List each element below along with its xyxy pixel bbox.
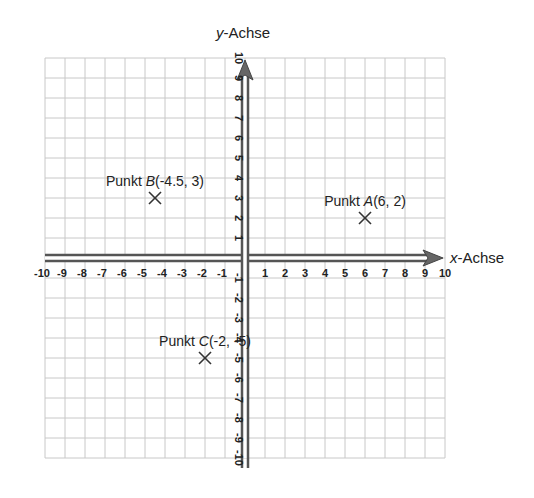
x-tick-label: 2 (282, 267, 288, 279)
x-tick-label: -3 (177, 267, 187, 279)
x-tick-label: 10 (439, 267, 451, 279)
x-tick-label: 4 (322, 267, 329, 279)
x-tick-label: -7 (97, 267, 107, 279)
y-tick-label: 7 (233, 115, 245, 121)
point-label: Punkt C(-2, -5) (159, 333, 251, 349)
y-tick-label: -9 (233, 433, 245, 443)
y-tick-label: 8 (233, 95, 245, 101)
x-tick-label: -10 (34, 267, 50, 279)
y-tick-label: 9 (233, 75, 245, 81)
y-tick-label: 5 (233, 155, 245, 161)
x-tick-label: 5 (342, 267, 348, 279)
points: Punkt A(6, 2)Punkt B(-4.5, 3)Punkt C(-2,… (106, 173, 406, 364)
y-tick-label: -7 (233, 393, 245, 403)
y-tick-label: -2 (233, 293, 245, 303)
y-tick-label: 6 (233, 135, 245, 141)
x-tick-label: 3 (302, 267, 308, 279)
point-label: Punkt A(6, 2) (324, 193, 406, 209)
x-tick-label: -8 (77, 267, 87, 279)
y-tick-label: 10 (233, 52, 245, 64)
x-axis-label-rest: -Achse (458, 249, 505, 266)
coordinate-diagram: -10-9-8-7-6-5-4-3-2-112345678910-10-9-8-… (0, 0, 534, 498)
x-axis-label: x-Achse (449, 249, 504, 266)
x-tick-label: 7 (382, 267, 388, 279)
x-tick-label: -9 (57, 267, 67, 279)
point-b: Punkt B(-4.5, 3) (106, 173, 204, 204)
x-tick-label: -1 (217, 267, 227, 279)
x-tick-label: -6 (117, 267, 127, 279)
x-tick-label: -5 (137, 267, 147, 279)
x-tick-label: -4 (157, 267, 168, 279)
y-tick-label: -3 (233, 313, 245, 323)
y-tick-label: 3 (233, 195, 245, 201)
y-tick-label: -6 (233, 373, 245, 383)
y-tick-label: -8 (233, 413, 245, 423)
y-tick-label: -1 (233, 273, 245, 283)
y-tick-label: -10 (233, 450, 245, 466)
x-tick-label: 8 (402, 267, 408, 279)
y-axis-label: y-Achse (215, 24, 270, 41)
y-tick-label: -5 (233, 353, 245, 363)
x-tick-label: 1 (262, 267, 268, 279)
y-tick-label: 2 (233, 215, 245, 221)
x-tick-label: -2 (197, 267, 207, 279)
y-tick-label: 4 (233, 175, 245, 182)
y-tick-label: 1 (233, 235, 245, 241)
x-tick-label: 9 (422, 267, 428, 279)
x-tick-label: 6 (362, 267, 368, 279)
point-label: Punkt B(-4.5, 3) (106, 173, 204, 189)
y-axis-label-rest: -Achse (224, 24, 271, 41)
coordinate-plane: -10-9-8-7-6-5-4-3-2-112345678910-10-9-8-… (0, 0, 534, 498)
